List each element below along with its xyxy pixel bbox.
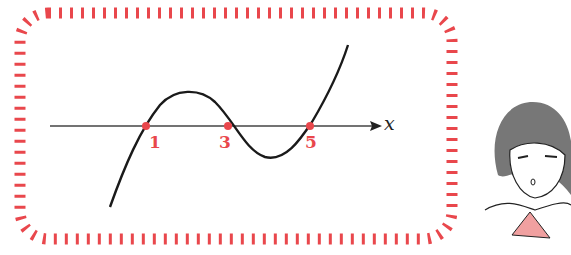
x-axis-label: x [384,112,395,134]
root-label-3: 3 [219,132,231,152]
girl-illustration [485,102,571,238]
root-label-1: 1 [149,132,161,152]
root-point-1 [142,122,150,130]
root-point-3 [224,122,232,130]
root-label-5: 5 [305,132,317,152]
diagram-canvas [0,0,571,255]
root-point-5 [306,122,314,130]
